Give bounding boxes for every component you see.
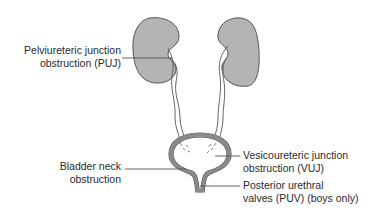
puj-label-line1: Pelviureteric junction <box>24 44 121 57</box>
puv-label-line1: Posterior urethral <box>243 179 359 192</box>
puj-label: Pelviureteric junction obstruction (PUJ) <box>24 44 121 70</box>
puj-label-line2: obstruction (PUJ) <box>24 57 121 70</box>
vuj-label-line1: Vesicoureteric junction <box>243 149 348 162</box>
bladder-neck-label: Bladder neck obstruction <box>60 160 121 186</box>
vuj-label: Vesicoureteric junction obstruction (VUJ… <box>243 149 348 175</box>
bladder-neck-label-line2: obstruction <box>60 173 121 186</box>
puv-label-line2: valves (PUV) (boys only) <box>243 192 359 205</box>
vuj-label-line2: obstruction (VUJ) <box>243 162 348 175</box>
right-kidney <box>218 18 259 86</box>
bladder-neck-label-line1: Bladder neck <box>60 160 121 173</box>
puv-label: Posterior urethral valves (PUV) (boys on… <box>243 179 359 205</box>
